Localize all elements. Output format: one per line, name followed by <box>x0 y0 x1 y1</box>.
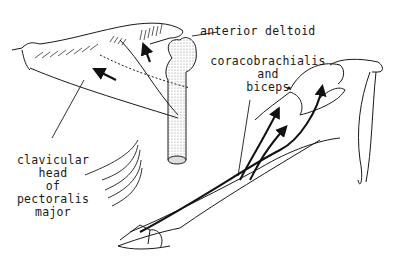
anatomy-figure: anterior deltoid coracobrachialis and bi… <box>0 0 396 272</box>
label-line: major <box>14 206 92 219</box>
ribs <box>85 140 142 206</box>
muscle-force-lines <box>140 88 322 232</box>
arrow-icon <box>96 70 116 80</box>
label-coracobrachialis-biceps: coracobrachialis and biceps <box>206 55 330 94</box>
humerus-bone <box>166 38 196 164</box>
line-drawing <box>0 0 396 272</box>
label-clavicular-head-pectoralis-major: clavicular head of pectoralis major <box>14 154 92 219</box>
label-line: biceps <box>206 81 330 94</box>
deltoid-region <box>12 23 190 118</box>
arrow-icon <box>144 46 150 62</box>
label-anterior-deltoid: anterior deltoid <box>200 25 316 38</box>
